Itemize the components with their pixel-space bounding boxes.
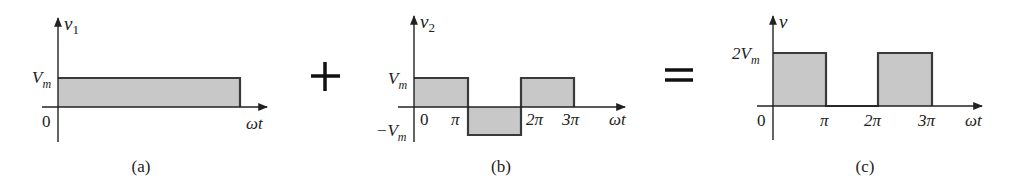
x-tick-pi: π <box>820 111 829 130</box>
y-axis-label: v2 <box>420 11 435 35</box>
x-axis-label: ωt <box>609 110 627 129</box>
x-tick-2pi: 2π <box>864 111 882 130</box>
square-wave-fill-3 <box>521 78 574 107</box>
origin-label: 0 <box>420 110 429 129</box>
y-axis-label: v <box>779 11 788 32</box>
y-tick-vm: Vm <box>32 68 51 91</box>
dc-waveform-fill <box>58 78 240 107</box>
caption-c: (c) <box>856 157 875 176</box>
y-axis-label: v1 <box>64 13 79 37</box>
origin-label: 0 <box>757 111 766 130</box>
panel-c: v 2Vm 0 π 2π 3π ωt (c) <box>732 11 983 176</box>
x-axis-label: ωt <box>246 114 264 133</box>
origin-label: 0 <box>42 112 51 131</box>
x-tick-pi: π <box>451 110 460 129</box>
y-tick-vm: Vm <box>388 69 407 92</box>
square-wave-fill-1 <box>414 78 468 107</box>
pulse-fill-2 <box>878 53 932 106</box>
x-tick-3pi: 3π <box>561 110 580 129</box>
x-tick-3pi: 3π <box>917 111 936 130</box>
plus-operator <box>311 62 340 91</box>
pulse-fill-1 <box>773 53 826 106</box>
superposition-figure: v1 Vm 0 ωt (a) v2 Vm −Vm 0 π 2π 3π ωt (b… <box>0 0 1023 187</box>
caption-a: (a) <box>132 157 151 176</box>
caption-b: (b) <box>491 157 511 176</box>
y-tick-neg-vm: −Vm <box>376 121 407 144</box>
panel-b: v2 Vm −Vm 0 π 2π 3π ωt (b) <box>376 11 627 176</box>
x-tick-2pi: 2π <box>526 110 544 129</box>
equals-operator <box>665 70 693 80</box>
x-axis-label: ωt <box>965 111 983 130</box>
panel-a: v1 Vm 0 ωt (a) <box>32 13 267 176</box>
square-wave-fill-2 <box>468 107 521 135</box>
y-tick-2vm: 2Vm <box>732 44 760 67</box>
